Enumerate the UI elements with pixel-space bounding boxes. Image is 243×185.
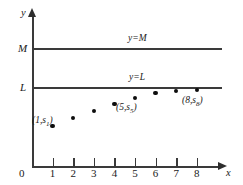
data-point-3	[92, 109, 97, 114]
x-tick-label-6: 6	[150, 168, 162, 179]
line-annotation-M: y=M	[128, 34, 147, 44]
x-tick-7	[176, 158, 177, 166]
annot-5-prefix: (5,	[116, 102, 126, 112]
x-tick-3	[94, 158, 95, 166]
point-annotation-5: (5,s5)	[116, 103, 137, 115]
x-tick-8	[197, 158, 198, 166]
data-point-7	[174, 89, 179, 94]
annot-5-suffix: )	[134, 102, 137, 112]
y-tick-label-M: M	[18, 43, 27, 54]
x-tick-label-8: 8	[191, 168, 203, 179]
y-axis-arrow-icon	[28, 8, 36, 17]
x-tick-4	[114, 158, 115, 166]
origin-label: 0	[19, 168, 25, 179]
sequence-limit-figure: y x 0 M L y=M y=L 12345678 (1,s1) (5,s5)…	[0, 0, 243, 185]
y-axis	[32, 14, 34, 167]
x-tick-label-4: 4	[108, 168, 120, 179]
data-point-8	[195, 88, 200, 93]
x-tick-6	[156, 158, 157, 166]
point-annotation-8: (8,s8)	[182, 96, 203, 108]
x-axis-label: x	[226, 168, 231, 179]
annot-1-suffix: )	[50, 115, 53, 125]
y-tick-label-L: L	[20, 82, 26, 93]
x-tick-5	[135, 158, 136, 166]
limit-line-L	[32, 87, 222, 89]
x-tick-label-2: 2	[67, 168, 79, 179]
data-point-5	[133, 96, 138, 101]
x-tick-1	[53, 158, 54, 166]
x-tick-label-5: 5	[129, 168, 141, 179]
x-tick-2	[73, 158, 74, 166]
y-axis-label: y	[21, 8, 26, 19]
data-point-6	[153, 91, 158, 96]
x-tick-label-1: 1	[47, 168, 59, 179]
bound-line-M	[32, 48, 222, 50]
x-tick-label-3: 3	[88, 168, 100, 179]
annot-8-suffix: )	[200, 95, 203, 105]
annot-8-prefix: (8,	[182, 95, 192, 105]
annot-1-prefix: (1,	[32, 115, 42, 125]
point-annotation-1: (1,s1)	[32, 116, 53, 128]
data-point-2	[71, 116, 76, 121]
line-annotation-L: y=L	[129, 73, 145, 83]
x-tick-label-7: 7	[170, 168, 182, 179]
